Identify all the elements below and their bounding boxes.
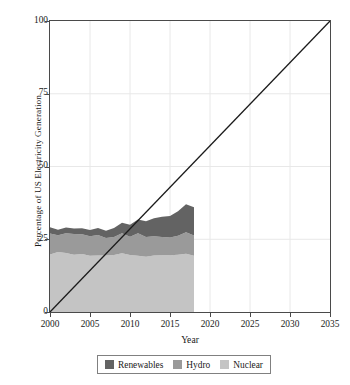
x-tick-label: 2015 (150, 319, 190, 329)
y-tick-label: 75 (8, 87, 48, 97)
x-tick-mark (170, 313, 171, 317)
x-tick-mark (250, 313, 251, 317)
chart-legend: RenewablesHydroNuclear (97, 355, 271, 374)
legend-label: Hydro (186, 360, 210, 370)
legend-swatch-icon (105, 360, 114, 369)
plot-area (49, 20, 331, 313)
x-tick-label: 2030 (270, 319, 310, 329)
legend-swatch-icon (173, 360, 182, 369)
x-tick-label: 2005 (70, 319, 110, 329)
x-tick-label: 2010 (110, 319, 150, 329)
x-tick-label: 2025 (230, 319, 270, 329)
y-tick-label: 100 (8, 15, 48, 25)
legend-swatch-icon (220, 360, 229, 369)
x-tick-label: 2020 (190, 319, 230, 329)
area-series-renewables (50, 204, 194, 238)
legend-entry[interactable]: Nuclear (220, 360, 263, 370)
area-series-nuclear (50, 252, 194, 312)
x-tick-label: 2035 (310, 319, 350, 329)
x-tick-mark (130, 313, 131, 317)
legend-label: Nuclear (233, 360, 263, 370)
x-tick-mark (290, 313, 291, 317)
y-tick-label: 25 (8, 233, 48, 243)
chart-figure: Percentage of US Electricity Generation … (0, 0, 350, 385)
y-tick-label: 50 (8, 160, 48, 170)
y-tick-label: 0 (8, 306, 48, 316)
legend-entry[interactable]: Hydro (173, 360, 210, 370)
x-tick-mark (90, 313, 91, 317)
x-tick-label: 2000 (30, 319, 70, 329)
x-tick-mark (330, 313, 331, 317)
legend-label: Renewables (118, 360, 163, 370)
stacked-area-svg (50, 21, 330, 312)
x-tick-mark (50, 313, 51, 317)
x-axis-title: Year (49, 334, 331, 345)
x-tick-mark (210, 313, 211, 317)
area-series-group (50, 204, 194, 312)
legend-entry[interactable]: Renewables (105, 360, 163, 370)
